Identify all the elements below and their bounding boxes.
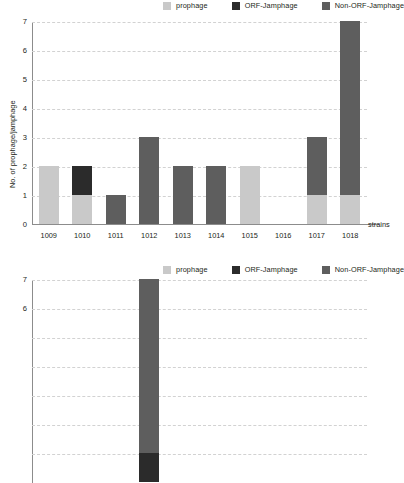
y-axis-tick-7: 7 <box>23 276 27 284</box>
legend-swatch-icon <box>322 2 330 10</box>
x-axis-tick-1009: 1009 <box>41 232 57 239</box>
bar-segment-orf-jamphage <box>139 453 159 482</box>
legend-item-non-orf-jamphage[interactable]: Non-ORF-Jamphage <box>322 2 404 10</box>
gridline <box>32 80 367 81</box>
x-axis-tick-1012: 1012 <box>141 232 157 239</box>
x-axis-tick-1010: 1010 <box>74 232 90 239</box>
legend-swatch-icon <box>232 266 240 274</box>
bar-segment-non-orf-jamphage <box>206 166 226 224</box>
x-axis-label-top: strains <box>368 221 390 228</box>
y-axis-tick-0: 0 <box>23 221 27 229</box>
y-axis-tick-4: 4 <box>23 105 27 113</box>
legend-swatch-icon <box>232 2 240 10</box>
gridline <box>32 367 367 368</box>
y-axis-tick-6: 6 <box>23 305 27 313</box>
bar-1013[interactable] <box>173 166 193 224</box>
gridline <box>32 309 367 310</box>
gridline <box>32 51 367 52</box>
legend-label: Non-ORF-Jamphage <box>335 266 404 273</box>
legend-label: Non-ORF-Jamphage <box>335 2 404 9</box>
x-axis-line-top <box>32 224 367 225</box>
x-axis-tick-1013: 1013 <box>175 232 191 239</box>
gridline <box>32 454 367 455</box>
bar-segment-non-orf-jamphage <box>139 279 159 453</box>
legend-item-orf-jamphage[interactable]: ORF-Jamphage <box>232 266 298 274</box>
legend-item-prophage[interactable]: prophage <box>163 266 208 274</box>
bar-1011[interactable] <box>106 195 126 224</box>
bar-segment-non-orf-jamphage <box>307 137 327 195</box>
plot-area-bottom: 67 <box>32 280 367 483</box>
bar-segment-prophage <box>39 166 59 224</box>
legend-label: prophage <box>176 2 208 9</box>
bar-1017[interactable] <box>307 137 327 224</box>
gridline <box>32 425 367 426</box>
bar-segment-orf-jamphage <box>72 166 92 195</box>
bar-idx1[interactable] <box>139 279 159 482</box>
gridline <box>32 396 367 397</box>
legend-swatch-icon <box>322 266 330 274</box>
gridline <box>32 109 367 110</box>
legend-swatch-icon <box>163 2 171 10</box>
y-axis-tick-5: 5 <box>23 76 27 84</box>
chart-legend-top: prophageORF-JamphageNon-ORF-Jamphage <box>163 2 404 10</box>
y-axis-line-bottom <box>32 280 33 483</box>
bar-1015[interactable] <box>240 166 260 224</box>
x-axis-tick-1011: 1011 <box>108 232 124 239</box>
gridline <box>32 22 367 23</box>
y-axis-tick-3: 3 <box>23 134 27 142</box>
bar-segment-non-orf-jamphage <box>173 166 193 224</box>
bar-segment-non-orf-jamphage <box>106 195 126 224</box>
legend-label: ORF-Jamphage <box>245 266 298 273</box>
gridline <box>32 280 367 281</box>
x-axis-tick-1016: 1016 <box>275 232 291 239</box>
x-axis-tick-1014: 1014 <box>208 232 224 239</box>
bar-1014[interactable] <box>206 166 226 224</box>
bar-1012[interactable] <box>139 137 159 224</box>
legend-label: prophage <box>176 266 208 273</box>
gridline <box>32 338 367 339</box>
bar-segment-prophage <box>307 195 327 224</box>
legend-item-non-orf-jamphage[interactable]: Non-ORF-Jamphage <box>322 266 404 274</box>
chart-legend-bottom: prophageORF-JamphageNon-ORF-Jamphage <box>163 266 404 274</box>
chart-prophage-jamphage-bottom: prophageORF-JamphageNon-ORF-Jamphage 67 <box>0 262 393 335</box>
bar-segment-prophage <box>340 195 360 224</box>
bar-1018[interactable] <box>340 21 360 224</box>
bar-1010[interactable] <box>72 166 92 224</box>
legend-item-orf-jamphage[interactable]: ORF-Jamphage <box>232 2 298 10</box>
y-axis-label-top: No. of prophage/jamphage <box>9 100 16 188</box>
x-axis-tick-1018: 1018 <box>342 232 358 239</box>
legend-swatch-icon <box>163 266 171 274</box>
x-axis-tick-1017: 1017 <box>309 232 325 239</box>
chart-prophage-jamphage-top: prophageORF-JamphageNon-ORF-Jamphage No.… <box>0 0 393 250</box>
bar-segment-prophage <box>240 166 260 224</box>
x-axis-tick-1015: 1015 <box>242 232 258 239</box>
bar-1009[interactable] <box>39 166 59 224</box>
y-axis-tick-1: 1 <box>23 192 27 200</box>
bar-segment-non-orf-jamphage <box>340 21 360 195</box>
y-axis-tick-2: 2 <box>23 163 27 171</box>
legend-label: ORF-Jamphage <box>245 2 298 9</box>
y-axis-tick-7: 7 <box>23 18 27 26</box>
bar-segment-non-orf-jamphage <box>139 137 159 224</box>
plot-area-top: 0123456710091010101110121013101410151016… <box>32 22 367 225</box>
legend-item-prophage[interactable]: prophage <box>163 2 208 10</box>
y-axis-line-top <box>32 22 33 225</box>
bar-segment-prophage <box>72 195 92 224</box>
y-axis-tick-6: 6 <box>23 47 27 55</box>
